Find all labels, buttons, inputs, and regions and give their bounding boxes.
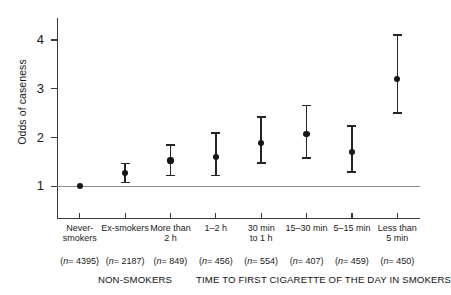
data-series-odds-ratios xyxy=(0,0,451,295)
confidence-interval-lower-cap xyxy=(257,162,266,164)
group-label-non-smokers: NON-SMOKERS xyxy=(60,274,210,285)
confidence-interval-upper-cap xyxy=(257,116,266,118)
x-category-label: Less than 5 min xyxy=(368,223,427,244)
confidence-interval-lower-cap xyxy=(347,171,356,173)
odds-ratio-marker xyxy=(303,131,309,137)
confidence-interval-lower-cap xyxy=(166,175,175,177)
confidence-interval-lower-cap xyxy=(211,175,220,177)
confidence-interval-upper-cap xyxy=(393,34,402,36)
group-label-smokers: TIME TO FIRST CIGARETTE OF THE DAY IN SM… xyxy=(196,274,440,285)
confidence-interval-lower-cap xyxy=(393,112,402,114)
confidence-interval-lower-cap xyxy=(302,157,311,159)
odds-ratio-marker xyxy=(122,170,128,176)
confidence-interval-upper-cap xyxy=(347,125,356,127)
odds-ratio-marker xyxy=(167,157,173,163)
odds-ratio-marker xyxy=(349,149,355,155)
odds-ratio-marker xyxy=(213,154,219,160)
sample-size-label: (n= 450) xyxy=(369,256,426,266)
odds-ratio-marker xyxy=(77,183,83,189)
confidence-interval-upper-cap xyxy=(302,105,311,107)
confidence-interval-lower-cap xyxy=(121,182,130,184)
odds-ratio-marker xyxy=(258,140,264,146)
confidence-interval-upper-cap xyxy=(166,144,175,146)
confidence-interval-upper-cap xyxy=(121,163,130,165)
confidence-interval-line xyxy=(397,35,399,113)
odds-of-caseness-chart: 1234 Odds of caseness Never-smokersEx-sm… xyxy=(0,0,451,295)
odds-ratio-marker xyxy=(394,76,400,82)
confidence-interval-upper-cap xyxy=(211,132,220,134)
